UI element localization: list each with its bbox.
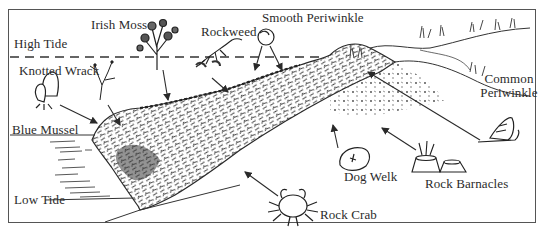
knotted-wrack-label: Knotted Wrack — [19, 64, 99, 78]
dog-welk-label: Dog Welk — [344, 170, 397, 184]
common-periwinkle-label-line2: Periwinkle — [478, 86, 540, 100]
smooth-periwinkle-label: Smooth Periwinkle — [262, 11, 364, 25]
rock-slope — [92, 44, 395, 210]
illustration — [0, 0, 543, 241]
common-periwinkle-icon — [478, 118, 519, 142]
blue-mussel-label: Blue Mussel — [12, 123, 78, 137]
low-tide-label: Low Tide — [14, 193, 65, 207]
rock-crab-icon — [268, 189, 318, 226]
irish-moss-label: Irish Moss — [91, 18, 147, 32]
dog-welk-icon — [340, 148, 370, 171]
rock-barnacles-label: Rock Barnacles — [425, 177, 508, 191]
tidal-zone-diagram: High Tide Low Tide Irish Moss Rockweed S… — [0, 0, 543, 241]
rockweed-icon — [196, 39, 242, 67]
common-periwinkle-label-line1: Common — [478, 72, 540, 86]
rock-crab-label: Rock Crab — [320, 208, 377, 222]
rockweed-label: Rockweed — [201, 25, 257, 39]
smooth-periwinkle-icon — [258, 29, 274, 45]
common-periwinkle-label: Common Periwinkle — [478, 72, 540, 100]
rock-barnacles-icon — [412, 141, 466, 172]
high-tide-label: High Tide — [14, 37, 67, 51]
